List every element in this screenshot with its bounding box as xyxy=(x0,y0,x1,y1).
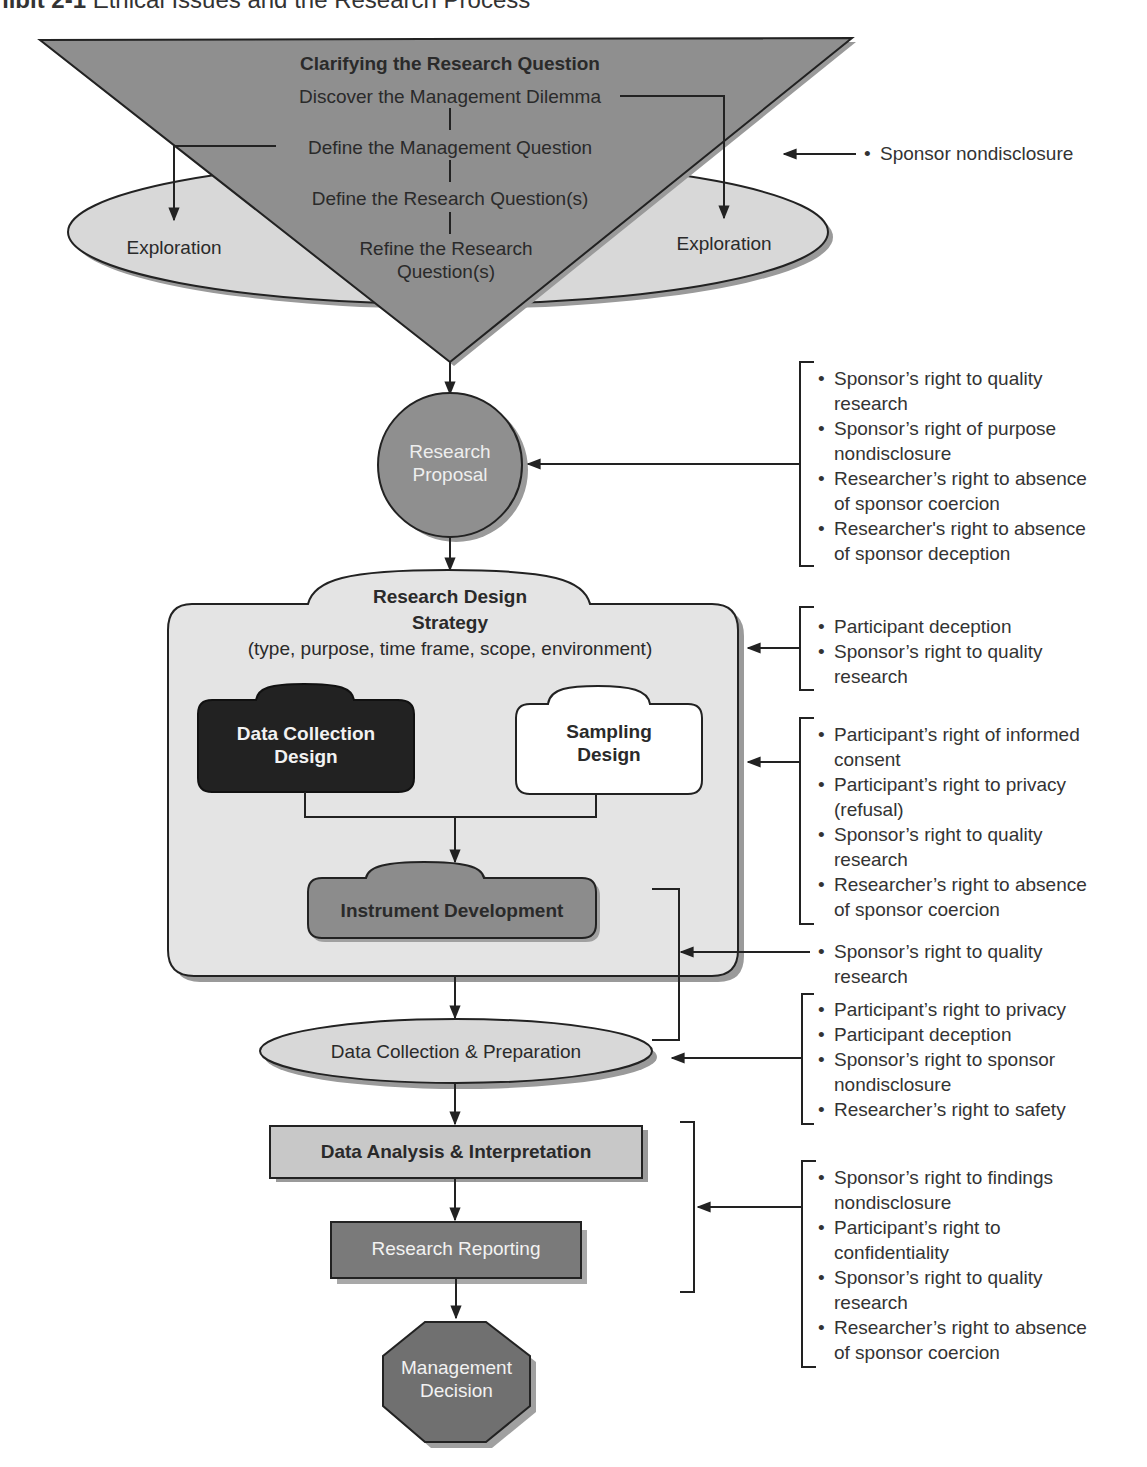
management-decision-label: Management Decision xyxy=(383,1356,530,1402)
step-refine-line1: Refine the Research xyxy=(296,237,596,260)
design-heading: Research Design Strategy xyxy=(300,584,600,636)
issue-item: Participant’s right to privacy(refusal) xyxy=(818,772,1087,822)
design-heading-line1: Research Design xyxy=(300,584,600,610)
issues-collection: Participant’s right to privacy Participa… xyxy=(818,997,1066,1122)
step-refine-line2: Question(s) xyxy=(296,260,596,283)
exploration-left-label: Exploration xyxy=(104,236,244,259)
issue-item: Participant deception xyxy=(818,614,1042,639)
issues-design-strategy: Participant deception Sponsor’s right to… xyxy=(818,614,1042,689)
design-subtitle: (type, purpose, time frame, scope, envir… xyxy=(200,637,700,660)
design-strategy-bracket xyxy=(748,607,814,690)
issue-item: Researcher’s right to absenceof sponsor … xyxy=(818,1315,1087,1365)
issue-item: Sponsor’s right to findingsnondisclosure xyxy=(818,1165,1087,1215)
step-refine-research-question: Refine the Research Question(s) xyxy=(296,237,596,283)
proposal-bracket xyxy=(528,362,814,566)
sampling-design-line1: Sampling xyxy=(516,720,702,743)
design-sub-bracket xyxy=(748,718,814,924)
collection-bracket xyxy=(672,994,814,1124)
data-analysis-label: Data Analysis & Interpretation xyxy=(270,1140,642,1163)
issue-item: Sponsor’s right to qualityresearch xyxy=(818,366,1087,416)
data-collection-design-label: Data Collection Design xyxy=(198,722,414,768)
issue-item: Sponsor’s right to sponsornondisclosure xyxy=(818,1047,1066,1097)
research-proposal-line1: Research xyxy=(378,440,522,463)
clarify-heading: Clarifying the Research Question xyxy=(250,52,650,75)
issue-item: Participant’s right to privacy xyxy=(818,997,1066,1022)
issues-clarify: Sponsor nondisclosure xyxy=(864,141,1073,166)
analysis-reporting-bracket xyxy=(680,1122,816,1367)
issue-item: Researcher’s right to absenceof sponsor … xyxy=(818,872,1087,922)
issues-proposal: Sponsor’s right to qualityresearch Spons… xyxy=(818,366,1087,566)
instrument-development-label: Instrument Development xyxy=(308,899,596,922)
issue-item: Researcher’s right to safety xyxy=(818,1097,1066,1122)
sampling-design-label: Sampling Design xyxy=(516,720,702,766)
management-decision-line1: Management xyxy=(383,1356,530,1379)
research-proposal-label: Research Proposal xyxy=(378,440,522,486)
issue-item: Sponsor nondisclosure xyxy=(864,141,1073,166)
issue-item: Participant’s right of informedconsent xyxy=(818,722,1087,772)
research-proposal-line2: Proposal xyxy=(378,463,522,486)
management-decision-line2: Decision xyxy=(383,1379,530,1402)
data-collection-design-line1: Data Collection xyxy=(198,722,414,745)
data-collection-preparation-label: Data Collection & Preparation xyxy=(260,1040,652,1063)
issue-item: Sponsor’s right to qualityresearch xyxy=(818,939,1042,989)
issue-item: Researcher’s right to absenceof sponsor … xyxy=(818,466,1087,516)
issue-item: Sponsor’s right to qualityresearch xyxy=(818,822,1087,872)
issues-design-sub: Participant’s right of informedconsent P… xyxy=(818,722,1087,922)
issue-item: Sponsor’s right of purposenondisclosure xyxy=(818,416,1087,466)
step-define-research-question: Define the Research Question(s) xyxy=(250,187,650,210)
research-reporting-label: Research Reporting xyxy=(331,1237,581,1260)
issue-item: Sponsor’s right to qualityresearch xyxy=(818,639,1042,689)
issue-item: Participant deception xyxy=(818,1022,1066,1047)
issue-item: Sponsor’s right to qualityresearch xyxy=(818,1265,1087,1315)
issue-item: Researcher's right to absenceof sponsor … xyxy=(818,516,1087,566)
step-discover-dilemma: Discover the Management Dilemma xyxy=(250,85,650,108)
issues-analysis-reporting: Sponsor’s right to findingsnondisclosure… xyxy=(818,1165,1087,1365)
step-define-management-question: Define the Management Question xyxy=(250,136,650,159)
sampling-design-line2: Design xyxy=(516,743,702,766)
exploration-right-label: Exploration xyxy=(654,232,794,255)
issue-item: Participant’s right toconfidentiality xyxy=(818,1215,1087,1265)
design-heading-line2: Strategy xyxy=(300,610,600,636)
data-collection-design-line2: Design xyxy=(198,745,414,768)
issues-instrument-collection: Sponsor’s right to qualityresearch xyxy=(818,939,1042,989)
